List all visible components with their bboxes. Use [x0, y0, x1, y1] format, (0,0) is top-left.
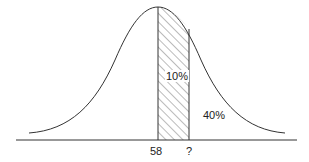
normal-curve-diagram: [0, 0, 309, 162]
bell-curve: [29, 7, 285, 133]
unknown-value-label: ?: [186, 145, 192, 157]
tail-percent-label: 40%: [203, 109, 225, 121]
shaded-percent-label: 10%: [165, 70, 189, 82]
mean-value-label: 58: [150, 145, 162, 157]
